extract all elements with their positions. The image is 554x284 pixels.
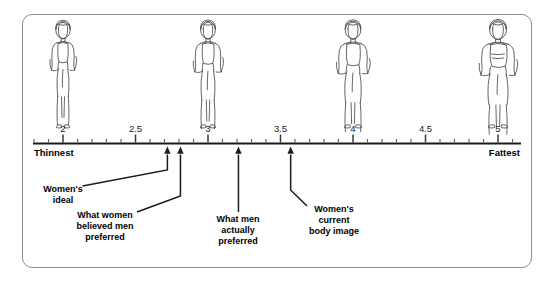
axis-tick-label: 5 — [495, 123, 500, 134]
annotation-label-line: Women's — [43, 184, 82, 194]
annotation-label-line: What men — [216, 214, 259, 224]
annotation-label-line: believed men — [76, 221, 133, 231]
body-figure-at-2 — [50, 20, 77, 128]
annotation-label-line: Women's — [314, 204, 353, 214]
body-figure-at-5 — [479, 19, 518, 134]
annotation-label-line: actually — [221, 225, 255, 235]
annotation-group: Women'sidealWhat womenbelieved menprefer… — [43, 147, 359, 247]
annotation-leader-line — [83, 155, 168, 187]
axis-tick-label: 3.5 — [274, 123, 287, 134]
annotation-arrowhead — [287, 147, 293, 154]
body-figure-group — [50, 19, 518, 134]
axis-tick-label: 4 — [350, 123, 355, 134]
axis-label-fattest: Fattest — [489, 147, 521, 158]
axis-tick-label: 4.5 — [419, 123, 432, 134]
annotation-3: What menactuallypreferred — [216, 147, 259, 247]
tick-marks — [34, 135, 513, 143]
annotation-leader-line — [137, 155, 180, 213]
annotation-arrowhead — [164, 147, 170, 154]
annotation-label-line: current — [318, 215, 349, 225]
annotation-leader-line — [291, 155, 307, 207]
annotation-label-line: What women — [77, 210, 133, 220]
body-figure-at-3 — [193, 20, 223, 129]
annotation-label-line: ideal — [53, 195, 74, 205]
annotation-label-line: preferred — [218, 236, 258, 246]
axis-label-thinnest: Thinnest — [34, 147, 74, 158]
axis-tick-label: 3 — [205, 123, 210, 134]
annotation-arrowhead — [177, 147, 183, 154]
body-figure-at-4 — [336, 20, 370, 132]
axis-tick-label: 2 — [60, 123, 65, 134]
body-image-scale-chart: 22.533.544.55 Thinnest Fattest Women'sid… — [0, 0, 554, 284]
annotation-label-line: preferred — [85, 232, 125, 242]
annotation-arrowhead — [235, 147, 241, 154]
axis: 22.533.544.55 — [33, 123, 521, 144]
tick-labels: 22.533.544.55 — [60, 123, 500, 134]
axis-tick-label: 2.5 — [129, 123, 142, 134]
annotation-label-line: body image — [309, 226, 359, 236]
annotation-4: Women'scurrentbody image — [287, 147, 359, 237]
